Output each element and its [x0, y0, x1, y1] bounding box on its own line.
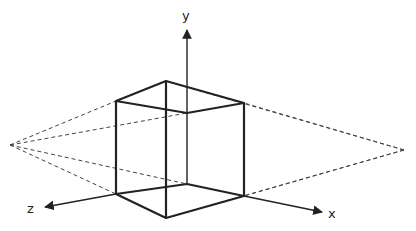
- x-axis: [244, 196, 322, 212]
- perspective-diagram: [0, 0, 416, 231]
- y-axis-label: y: [182, 9, 190, 22]
- vanishing-lines: [10, 81, 404, 218]
- cube: [116, 81, 244, 218]
- x-axis-label: x: [328, 207, 336, 220]
- z-axis: [45, 194, 116, 207]
- z-axis-label: z: [27, 202, 34, 215]
